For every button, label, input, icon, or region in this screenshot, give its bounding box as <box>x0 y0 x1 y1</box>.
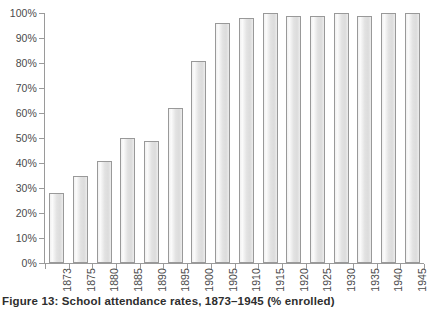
x-axis: 1873187518801885189018951900190519101915… <box>45 268 424 288</box>
y-tick-label: 70% <box>16 82 37 94</box>
x-tick-mark <box>377 264 378 269</box>
y-tick-mark <box>39 138 44 139</box>
y-tick-mark <box>39 113 44 114</box>
bar-1945 <box>405 13 420 263</box>
x-tick-label: 1930 <box>345 268 357 292</box>
x-tick-label: 1910 <box>250 268 262 292</box>
x-tick-label: 1895 <box>179 268 191 292</box>
x-tick-mark <box>92 264 93 269</box>
y-tick-mark <box>39 213 44 214</box>
x-tick-label: 1935 <box>369 268 381 292</box>
x-tick-label: 1940 <box>392 268 404 292</box>
x-tick-label: 1945 <box>416 268 428 292</box>
x-tick-mark <box>140 264 141 269</box>
x-tick-label: 1873 <box>61 268 73 292</box>
y-tick-mark <box>39 13 44 14</box>
bar-1890 <box>144 141 159 264</box>
figure-caption: Figure 13: School attendance rates, 1873… <box>2 295 335 307</box>
x-tick-label: 1900 <box>203 268 215 292</box>
bar-1920 <box>286 16 301 264</box>
x-axis-line <box>44 263 424 264</box>
x-tick-label: 1875 <box>85 268 97 292</box>
x-tick-label: 1925 <box>321 268 333 292</box>
y-tick-mark <box>39 263 44 264</box>
y-tick-mark <box>39 38 44 39</box>
y-tick-label: 90% <box>16 32 37 44</box>
y-tick-label: 60% <box>16 107 37 119</box>
x-tick-label: 1915 <box>274 268 286 292</box>
y-tick-label: 20% <box>16 207 37 219</box>
x-tick-label: 1885 <box>132 268 144 292</box>
bar-1905 <box>215 23 230 263</box>
y-tick-label: 80% <box>16 57 37 69</box>
bar-1935 <box>357 16 372 264</box>
y-tick-label: 10% <box>16 232 37 244</box>
bar-1930 <box>334 13 349 263</box>
y-tick-mark <box>39 238 44 239</box>
bar-1885 <box>120 138 135 263</box>
x-tick-mark <box>306 264 307 269</box>
y-tick-label: 40% <box>16 157 37 169</box>
x-tick-mark <box>163 264 164 269</box>
bar-1880 <box>97 161 112 264</box>
bar-1895 <box>168 108 183 263</box>
bars-group <box>45 13 424 263</box>
x-tick-mark <box>187 264 188 269</box>
bar-chart: 0%10%20%30%40%50%60%70%80%90%100% 187318… <box>0 0 436 288</box>
x-tick-mark <box>353 264 354 269</box>
x-tick-label: 1880 <box>108 268 120 292</box>
x-tick-mark <box>116 264 117 269</box>
y-tick-mark <box>39 88 44 89</box>
bar-1915 <box>263 13 278 263</box>
bar-1925 <box>310 16 325 264</box>
x-tick-label: 1920 <box>298 268 310 292</box>
x-tick-mark <box>235 264 236 269</box>
x-tick-mark <box>329 264 330 269</box>
x-tick-mark <box>282 264 283 269</box>
x-tick-mark <box>400 264 401 269</box>
y-tick-label: 0% <box>22 257 37 269</box>
x-tick-label: 1890 <box>156 268 168 292</box>
y-tick-label: 50% <box>16 132 37 144</box>
y-tick-label: 100% <box>10 7 37 19</box>
x-tick-mark <box>258 264 259 269</box>
y-tick-label: 30% <box>16 182 37 194</box>
bar-1900 <box>191 61 206 264</box>
x-tick-mark <box>45 264 46 269</box>
x-tick-label: 1905 <box>227 268 239 292</box>
y-tick-mark <box>39 63 44 64</box>
y-tick-mark <box>39 188 44 189</box>
x-tick-mark <box>211 264 212 269</box>
x-tick-mark <box>69 264 70 269</box>
bar-1875 <box>73 176 88 264</box>
x-tick-mark <box>424 264 425 269</box>
y-axis: 0%10%20%30%40%50%60%70%80%90%100% <box>0 0 44 264</box>
figure-container: 0%10%20%30%40%50%60%70%80%90%100% 187318… <box>0 0 436 318</box>
bar-1940 <box>381 13 396 263</box>
y-tick-mark <box>39 163 44 164</box>
bar-1910 <box>239 18 254 263</box>
bar-1873 <box>49 193 64 263</box>
